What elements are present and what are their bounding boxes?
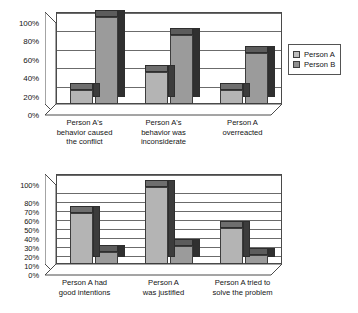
x-axis-category-label-line: Person A's [46, 118, 123, 128]
bar-chart-bottom: 0%10%20%30%40%50%60%70%80%100% Person A … [0, 158, 358, 313]
bar-side-face [168, 180, 175, 257]
x-axis-category-label-line: behavior was [125, 128, 202, 138]
x-axis-category-label-line: Person A [204, 118, 281, 128]
bar-side-face [268, 46, 275, 97]
bar-side-face [193, 28, 200, 97]
bar-top-face [70, 83, 93, 90]
y-axis-tick-label: 60% [24, 217, 39, 226]
bar-top-face [145, 65, 168, 72]
plot-area-top [45, 12, 282, 115]
bar-top-face [220, 221, 243, 228]
bar-person-a [70, 213, 93, 264]
y-axis-tick-label: 100% [20, 181, 39, 190]
y-axis-tick-label: 20% [24, 253, 39, 262]
bar-top-face [170, 28, 193, 35]
y-axis-tick-label: 70% [24, 208, 39, 217]
bar-person-a [220, 90, 243, 104]
bar-side-face [193, 239, 200, 257]
bar-top-face [70, 206, 93, 213]
legend-swatch-person-b-icon [293, 61, 300, 68]
plot-area-bottom [45, 174, 282, 275]
bar-top-face [95, 10, 118, 17]
x-axis-category-label: Person A tried tosolve the problem [203, 278, 282, 297]
x-axis-category-label: Person Awas justified [124, 278, 203, 297]
legend-label-person-b: Person B [304, 60, 335, 69]
y-axis-tick-label: 40% [23, 74, 39, 83]
x-axis-category-label: Person A hadgood intentions [45, 278, 124, 297]
bar-side-face [93, 83, 100, 97]
bar-front-face [70, 90, 93, 104]
bar-person-a [220, 228, 243, 264]
x-axis-category-label-line: the conflict [46, 137, 123, 147]
bar-top-face [245, 46, 268, 53]
x-axis-category-labels-top: Person A'sbehavior causedthe conflictPer… [45, 118, 282, 147]
x-axis-category-label-line: was justified [125, 288, 202, 298]
y-axis-tick-label: 50% [24, 226, 39, 235]
x-axis-category-label: Person A'sbehavior causedthe conflict [45, 118, 124, 147]
y-axis-tick-label: 60% [23, 55, 39, 64]
bar-person-a [145, 187, 168, 264]
bar-front-face [220, 90, 243, 104]
x-axis-category-labels-bottom: Person A hadgood intentionsPerson Awas j… [45, 278, 282, 297]
x-axis-category-label-line: behavior caused [46, 128, 123, 138]
bar-chart-top: 0%20%40%60%80%100% Person A'sbehavior ca… [0, 0, 358, 158]
x-axis-category-label-line: Person A [125, 278, 202, 288]
y-axis-tick-label: 0% [28, 271, 39, 280]
legend-swatch-person-a-icon [293, 51, 300, 58]
bar-top-face [220, 83, 243, 90]
bar-side-face [93, 206, 100, 257]
bar-front-face [70, 213, 93, 264]
x-axis-category-label-line: Person A's [125, 118, 202, 128]
y-axis-tick-label: 0% [28, 111, 39, 120]
bar-side-face [268, 248, 275, 257]
bar-side-face [118, 245, 125, 257]
y-axis-tick-label: 100% [19, 19, 39, 28]
axis-depth-wall-bottom [45, 174, 56, 275]
y-axis-tick-labels-bottom: 0%10%20%30%40%50%60%70%80%100% [0, 158, 42, 313]
x-axis-category-label-line: solve the problem [204, 288, 281, 298]
bar-side-face [243, 221, 250, 257]
y-axis-tick-labels-top: 0%20%40%60%80%100% [0, 0, 42, 158]
y-axis-tick-label: 30% [24, 244, 39, 253]
axis-depth-wall-top [45, 12, 56, 115]
y-axis-tick-label: 80% [23, 37, 39, 46]
y-axis-tick-label: 10% [24, 262, 39, 271]
gridline [57, 265, 281, 266]
x-axis-category-label-line: overreacted [204, 128, 281, 138]
legend-label-person-a: Person A [304, 50, 335, 59]
bars-layer-top [56, 12, 282, 104]
x-axis-category-label: Person Aoverreacted [203, 118, 282, 147]
x-axis-category-label: Person A'sbehavior wasinconsiderate [124, 118, 203, 147]
gridline [57, 105, 281, 106]
x-axis-category-label-line: good intentions [46, 288, 123, 298]
bar-person-a [70, 90, 93, 104]
legend-item-person-b: Person B [293, 60, 335, 69]
x-axis-category-label-line: Person A tried to [204, 278, 281, 288]
bar-person-a [145, 72, 168, 104]
x-axis-category-label-line: inconsiderate [125, 137, 202, 147]
y-axis-tick-label: 20% [23, 92, 39, 101]
bar-side-face [118, 10, 125, 97]
bar-front-face [145, 187, 168, 264]
bar-top-face [145, 180, 168, 187]
legend-item-person-a: Person A [293, 50, 335, 59]
bar-front-face [220, 228, 243, 264]
bars-layer-bottom [56, 174, 282, 264]
y-axis-tick-label: 40% [24, 235, 39, 244]
bar-front-face [145, 72, 168, 104]
bar-side-face [168, 65, 175, 97]
y-axis-tick-label: 80% [24, 199, 39, 208]
x-axis-category-label-line: Person A had [46, 278, 123, 288]
bar-side-face [243, 83, 250, 97]
legend-top: Person A Person B [288, 44, 341, 75]
